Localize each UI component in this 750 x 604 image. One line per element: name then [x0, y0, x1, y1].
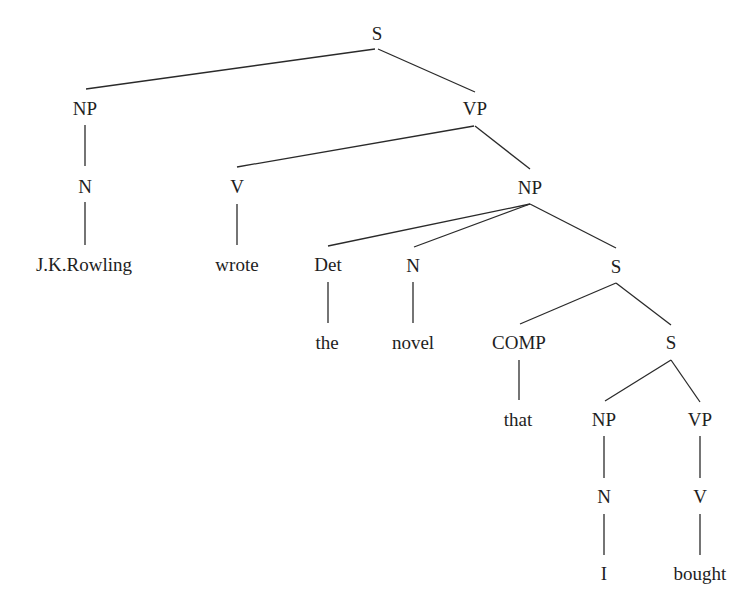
syntax-tree-diagram: SNPVPNVNPJ.K.RowlingwroteDetNSthenovelCO…	[0, 0, 750, 604]
edge-vp_main-to-np_obj	[475, 126, 530, 169]
node-vp-inner: VP	[688, 409, 712, 430]
node-comp: COMP	[492, 332, 546, 353]
node-v-main: V	[230, 176, 244, 197]
node-np-obj: NP	[518, 177, 542, 198]
tree-nodes: SNPVPNVNPJ.K.RowlingwroteDetNSthenovelCO…	[36, 23, 727, 584]
edge-np_obj-to-s_rel	[530, 204, 616, 248]
node-word-wrote: wrote	[215, 254, 258, 275]
edge-np_obj-to-det	[328, 204, 530, 246]
node-s-inner: S	[666, 332, 677, 353]
node-word-rowling: J.K.Rowling	[36, 254, 133, 275]
node-word-that: that	[504, 409, 533, 430]
node-s-rel: S	[611, 256, 622, 277]
node-word-i: I	[601, 563, 607, 584]
node-v-inner: V	[693, 486, 707, 507]
edge-np_obj-to-n_obj	[414, 204, 530, 247]
node-vp-main: VP	[463, 98, 487, 119]
edge-s_inner-to-vp_inner	[671, 360, 700, 402]
node-np-subj: NP	[73, 98, 97, 119]
node-det: Det	[314, 254, 342, 275]
node-n-obj: N	[406, 255, 420, 276]
node-np-inner: NP	[592, 409, 616, 430]
tree-edges	[85, 49, 700, 555]
edge-s_rel-to-comp	[520, 283, 616, 324]
node-n-subj: N	[78, 176, 92, 197]
node-word-the: the	[315, 332, 338, 353]
edge-s_root-to-vp_main	[378, 49, 475, 92]
node-word-novel: novel	[392, 332, 434, 353]
edge-s_inner-to-np_inner	[605, 360, 671, 401]
edge-s_rel-to-s_inner	[616, 283, 671, 325]
node-word-bought: bought	[674, 563, 728, 584]
node-n-inner: N	[597, 486, 611, 507]
edge-s_root-to-np_subj	[86, 49, 375, 89]
node-s-root: S	[372, 23, 383, 44]
edge-vp_main-to-v_main	[237, 126, 474, 167]
